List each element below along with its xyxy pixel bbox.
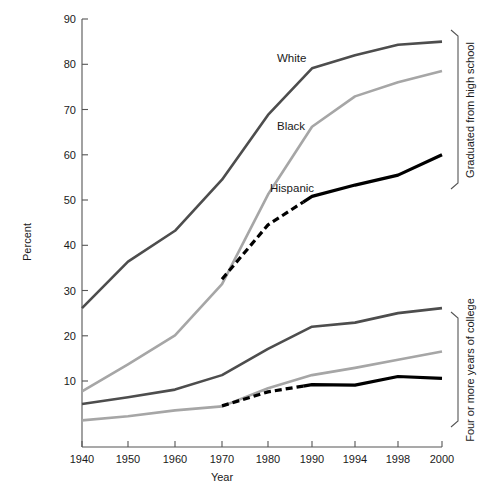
y-tick-label: 80 — [64, 58, 76, 70]
y-axis-title: Percent — [21, 223, 33, 261]
y-axis-tick-labels: 90 80 70 60 50 40 30 20 10 — [64, 13, 76, 387]
x-tick-label: 1940 — [70, 453, 94, 465]
series-line-hispanic — [303, 155, 442, 202]
y-tick-label: 30 — [64, 285, 76, 297]
series-line-hispanic-college — [303, 376, 442, 386]
x-axis-title: Year — [211, 471, 234, 483]
y-axis-ticks — [82, 19, 88, 381]
bracket-high-school-icon — [451, 30, 458, 189]
y-tick-label: 70 — [64, 104, 76, 116]
label-white: White — [277, 52, 306, 64]
x-axis-ticks — [82, 441, 442, 447]
x-axis-tick-labels: 1940 1950 1960 1970 1980 1990 1994 1998 … — [70, 453, 454, 465]
education-attainment-line-chart: 90 80 70 60 50 40 30 20 10 1940 1950 19 — [0, 0, 489, 497]
series-line-hispanic — [222, 202, 303, 279]
x-tick-label: 1950 — [116, 453, 140, 465]
x-tick-label: 1990 — [300, 453, 324, 465]
y-tick-label: 50 — [64, 194, 76, 206]
x-tick-label: 1980 — [256, 453, 280, 465]
x-tick-label: 1998 — [386, 453, 410, 465]
bracket-college-icon — [451, 312, 458, 427]
label-black: Black — [277, 120, 305, 132]
y-tick-label: 90 — [64, 13, 76, 25]
y-tick-label: 20 — [64, 330, 76, 342]
series-lines-layer — [82, 42, 442, 421]
x-tick-label: 1994 — [343, 453, 367, 465]
y-tick-label: 10 — [64, 375, 76, 387]
bracket-label-college: Four or more years of college — [464, 298, 476, 442]
y-tick-label: 60 — [64, 149, 76, 161]
label-hispanic: Hispanic — [270, 182, 314, 194]
series-line-white — [82, 42, 442, 309]
x-tick-label: 1970 — [210, 453, 234, 465]
x-tick-label: 1960 — [163, 453, 187, 465]
series-line-black-college — [82, 352, 442, 421]
chart-container: 90 80 70 60 50 40 30 20 10 1940 1950 19 — [0, 0, 489, 497]
series-line-black — [82, 71, 442, 391]
bracket-label-high-school: Graduated from high school — [464, 42, 476, 178]
y-tick-label: 40 — [64, 239, 76, 251]
x-tick-label: 2000 — [430, 453, 454, 465]
